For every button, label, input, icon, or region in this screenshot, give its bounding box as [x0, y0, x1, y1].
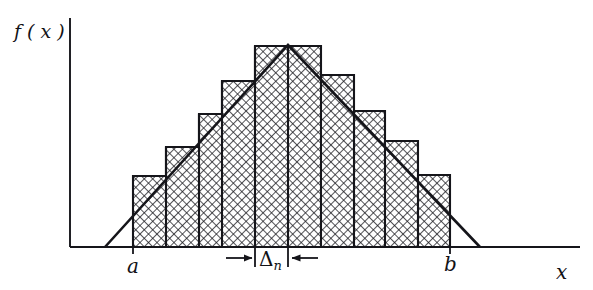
delta-n-label: Δn [259, 247, 282, 273]
bar-fill [385, 141, 418, 247]
x-axis-label: x [556, 260, 567, 284]
delta-subscript-n: n [273, 258, 281, 273]
y-axis-label: f ( x ) [12, 20, 65, 42]
figure-container: f ( x ) a b x Δn [0, 0, 593, 290]
bar-fill [199, 114, 222, 247]
bar-fill [321, 75, 354, 247]
delta-symbol: Δ [259, 247, 273, 271]
bar-fill [222, 81, 255, 247]
label-upper-limit-b: b [444, 252, 457, 276]
riemann-sum-figure: f ( x ) a b x Δn [0, 0, 593, 290]
label-lower-limit-a: a [127, 254, 139, 278]
